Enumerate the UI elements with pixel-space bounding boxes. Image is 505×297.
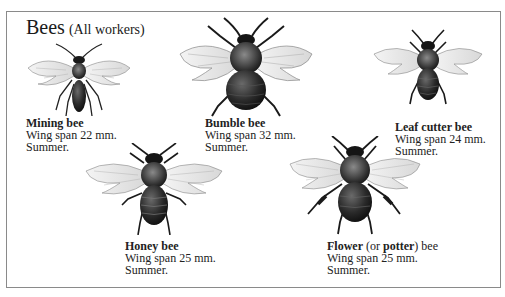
honey-bee-illustration xyxy=(84,143,224,235)
flower-bee-illustration xyxy=(288,136,422,236)
honey-bee-caption: Honey bee Wing span 25 mm. Summer. xyxy=(125,240,216,276)
bee-season: Summer. xyxy=(125,264,216,276)
page-title: Bees(All workers) xyxy=(26,15,145,42)
mining-bee-illustration xyxy=(26,40,132,116)
bee-name-part: ) bee xyxy=(414,239,438,253)
bumble-bee-illustration xyxy=(178,14,314,118)
leaf-cutter-bee-illustration xyxy=(372,28,484,106)
flower-bee-caption: Flower (or potter) bee Wing span 25 mm. … xyxy=(327,240,438,276)
bee-season: Summer. xyxy=(327,264,438,276)
title-sub: (All workers) xyxy=(69,22,145,37)
title-main: Bees xyxy=(26,16,65,38)
